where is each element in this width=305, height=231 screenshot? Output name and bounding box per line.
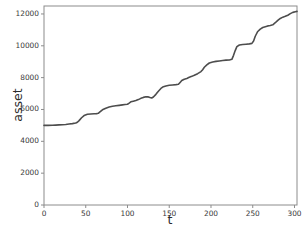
y-axis-label: asset xyxy=(12,88,25,121)
plot-canvas xyxy=(0,0,305,231)
x-tick-label: 300 xyxy=(287,210,301,217)
x-tick-label: 250 xyxy=(246,210,260,217)
y-tick-label: 2000 xyxy=(0,169,39,176)
y-tick-label: 10000 xyxy=(0,42,39,49)
asset-line-chart-figure: 020004000600080001000012000 050100150200… xyxy=(0,0,305,231)
y-tick-label: 4000 xyxy=(0,138,39,145)
x-tick-label: 100 xyxy=(120,210,134,217)
x-tick-label: 200 xyxy=(204,210,218,217)
x-axis-label: t xyxy=(168,214,173,227)
plot-background xyxy=(44,6,297,205)
x-tick-label: 50 xyxy=(81,210,90,217)
y-tick-label: 8000 xyxy=(0,74,39,81)
y-tick-label: 12000 xyxy=(0,10,39,17)
x-tick-label: 0 xyxy=(42,210,47,217)
y-tick-label: 0 xyxy=(0,201,39,208)
